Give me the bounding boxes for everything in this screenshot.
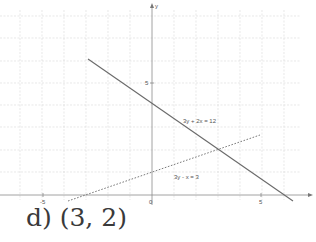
line-3y-minus-x-eq-3 (68, 135, 260, 201)
line2-equation-label: 3y - x = 3 (174, 174, 200, 180)
y-axis-arrow-icon (150, 3, 154, 8)
answer-option: d) (3, 2) (26, 203, 127, 232)
x-axis-arrow-icon (308, 193, 313, 197)
grid (0, 10, 300, 200)
line1-equation-label: 3y + 2x = 12 (183, 118, 217, 124)
graph: y -5 0 5 5 3y + 2x = 12 3y - x = 3 (0, 0, 316, 205)
y-axis-label: y (155, 3, 158, 9)
x-tick-label-5: 5 (259, 199, 263, 205)
